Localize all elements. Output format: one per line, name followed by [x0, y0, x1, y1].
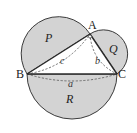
right-triangle-semicircles-diagram: A B C P Q R a b c: [0, 0, 137, 133]
right-angle-marker: [88, 35, 91, 38]
vertex-label-C: C: [118, 67, 126, 81]
region-label-P: P: [44, 31, 53, 45]
vertex-label-A: A: [88, 18, 97, 32]
vertex-label-B: B: [16, 67, 24, 81]
side-label-c: c: [60, 55, 65, 66]
region-label-Q: Q: [109, 42, 118, 56]
side-label-b: b: [95, 55, 100, 66]
region-label-R: R: [65, 92, 74, 106]
side-label-a: a: [68, 78, 73, 89]
